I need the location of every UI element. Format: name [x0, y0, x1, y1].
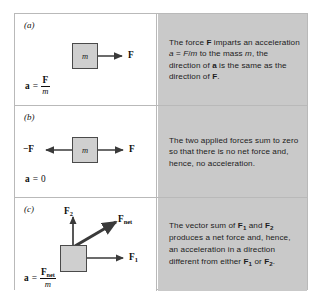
- panel-a-formula-fraction: F m: [41, 76, 50, 96]
- physics-force-figure: (a) m F a =: [14, 13, 308, 290]
- panel-a-caption: The force F imparts an acceleration a = …: [169, 36, 300, 82]
- panel-b-formula-value: 0: [41, 174, 46, 184]
- panel-a-letter: (a): [24, 20, 35, 30]
- panel-c-force-label-fnet: Fnet: [118, 214, 132, 225]
- panel-b-force-label-left: −F: [23, 144, 34, 154]
- panel-c-letter: (c): [24, 204, 34, 214]
- panel-a-formula: a = F m: [25, 76, 50, 96]
- panel-b-diagram: (b) m −F F a = 0: [15, 106, 157, 197]
- panel-b-formula-lhs: a: [25, 174, 30, 184]
- panel-b-letter: (b): [24, 112, 35, 122]
- panel-a-mass-label: m: [82, 51, 88, 61]
- panel-c-caption: The vector sum of F1 and F2 produces a n…: [169, 220, 300, 269]
- panel-c-mass-block: [60, 245, 87, 272]
- panel-c-row: (c) F2 Fnet F1 a: [15, 197, 307, 291]
- panel-a-diagram: (a) m F a =: [15, 14, 157, 105]
- panel-c-formula-numerator: Fnet: [40, 268, 56, 278]
- panel-a-formula-equals: =: [33, 81, 38, 91]
- panel-c-caption-cell: The vector sum of F1 and F2 produces a n…: [158, 198, 307, 291]
- panel-b-formula: a = 0: [25, 174, 46, 184]
- panel-a-formula-denominator: m: [42, 87, 48, 96]
- panel-a-row: (a) m F a =: [15, 14, 307, 105]
- panel-c-diagram: (c) F2 Fnet F1 a: [15, 198, 157, 291]
- panel-b-row: (b) m −F F a = 0 The two applied forces …: [15, 105, 307, 197]
- panel-c-formula-lhs: a: [24, 273, 29, 283]
- panel-b-mass-block: m: [72, 137, 98, 163]
- panel-b-formula-equals: =: [33, 174, 38, 184]
- panel-c-formula: a = Fnet m: [24, 268, 56, 288]
- panel-c-force-label-f1: F1: [129, 252, 138, 263]
- panel-a-formula-numerator: F: [42, 76, 50, 86]
- panel-a-caption-cell: The force F imparts an acceleration a = …: [158, 14, 307, 105]
- panel-c-force-arrow-net: [75, 222, 116, 246]
- panel-a-force-label-right: F: [128, 50, 134, 60]
- panel-b-caption-cell: The two applied forces sum to zero so th…: [158, 106, 307, 197]
- panel-c-formula-denominator: m: [45, 279, 51, 288]
- panel-a-formula-lhs: a: [25, 81, 30, 91]
- panel-c-formula-fraction: Fnet m: [40, 268, 56, 288]
- panel-b-mass-label: m: [82, 145, 88, 155]
- panel-a-mass-block: m: [72, 43, 98, 69]
- panel-b-force-label-right: F: [129, 144, 135, 154]
- panel-b-caption: The two applied forces sum to zero so th…: [169, 134, 300, 169]
- panel-c-formula-equals: =: [32, 273, 37, 283]
- panel-c-force-label-f2: F2: [64, 206, 73, 217]
